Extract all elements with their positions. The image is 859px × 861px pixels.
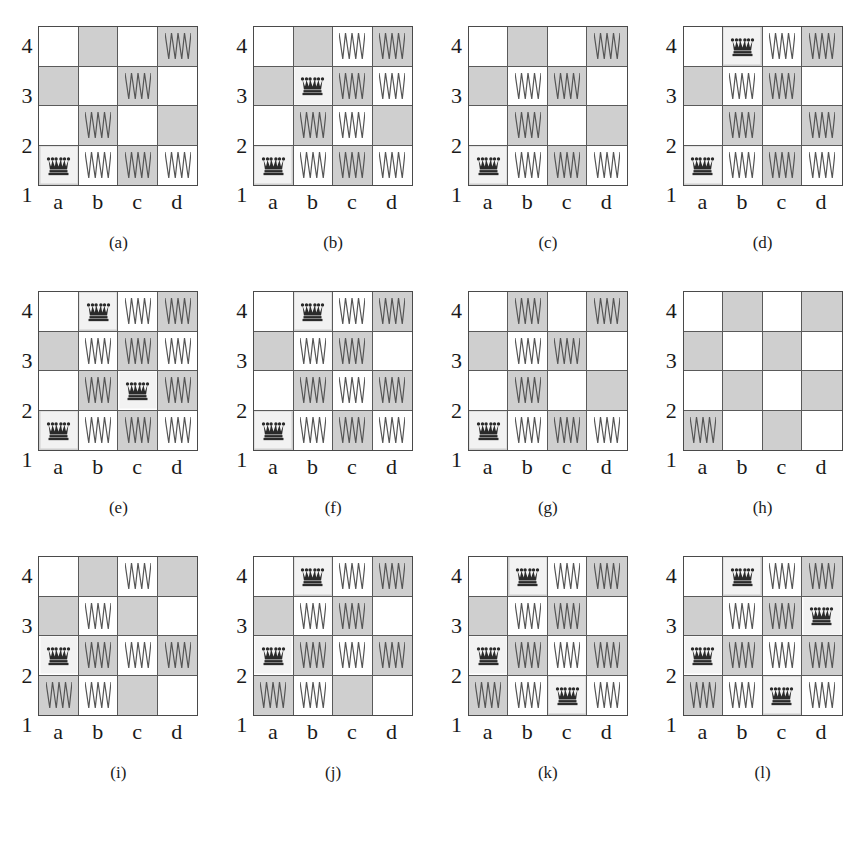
- square-b2[interactable]: [508, 636, 548, 676]
- square-a4[interactable]: [254, 27, 294, 67]
- square-c2[interactable]: [118, 106, 158, 146]
- square-d4[interactable]: [587, 292, 627, 332]
- square-c2[interactable]: [333, 371, 373, 411]
- queen-icon[interactable]: [470, 637, 507, 674]
- square-b3[interactable]: [79, 67, 119, 107]
- square-b2[interactable]: [508, 371, 548, 411]
- square-b2[interactable]: [79, 371, 119, 411]
- square-c4[interactable]: [763, 27, 803, 67]
- square-b2[interactable]: [508, 106, 548, 146]
- square-a3[interactable]: [39, 597, 79, 637]
- square-d2[interactable]: [802, 636, 842, 676]
- square-c3[interactable]: [333, 597, 373, 637]
- square-d4[interactable]: [158, 27, 198, 67]
- square-c4[interactable]: [548, 292, 588, 332]
- square-b2[interactable]: [723, 106, 763, 146]
- queen-icon[interactable]: [763, 677, 800, 714]
- square-c3[interactable]: [333, 332, 373, 372]
- square-d3[interactable]: [587, 597, 627, 637]
- square-d1[interactable]: [802, 676, 842, 716]
- square-a4[interactable]: [684, 557, 724, 597]
- square-c4[interactable]: [763, 292, 803, 332]
- square-d2[interactable]: [158, 106, 198, 146]
- queen-icon[interactable]: [803, 597, 840, 634]
- square-b2[interactable]: [79, 106, 119, 146]
- square-b3[interactable]: [79, 332, 119, 372]
- square-a3[interactable]: [39, 332, 79, 372]
- square-d4[interactable]: [158, 292, 198, 332]
- square-a2[interactable]: [684, 106, 724, 146]
- square-a3[interactable]: [254, 597, 294, 637]
- square-c2[interactable]: [763, 106, 803, 146]
- square-c2[interactable]: [548, 371, 588, 411]
- queen-icon[interactable]: [40, 147, 77, 184]
- square-a1[interactable]: [39, 411, 79, 451]
- square-b1[interactable]: [723, 146, 763, 186]
- square-c1[interactable]: [118, 411, 158, 451]
- square-a2[interactable]: [254, 106, 294, 146]
- square-b2[interactable]: [294, 106, 334, 146]
- square-c3[interactable]: [548, 332, 588, 372]
- square-c4[interactable]: [118, 557, 158, 597]
- square-b3[interactable]: [723, 332, 763, 372]
- square-c2[interactable]: [763, 371, 803, 411]
- square-a1[interactable]: [254, 411, 294, 451]
- square-c1[interactable]: [763, 676, 803, 716]
- square-d3[interactable]: [373, 597, 413, 637]
- square-d1[interactable]: [587, 146, 627, 186]
- square-a3[interactable]: [254, 332, 294, 372]
- queen-icon[interactable]: [684, 637, 721, 674]
- square-a3[interactable]: [469, 332, 509, 372]
- square-c2[interactable]: [763, 636, 803, 676]
- square-b1[interactable]: [79, 676, 119, 716]
- square-a1[interactable]: [684, 411, 724, 451]
- square-b1[interactable]: [723, 411, 763, 451]
- square-a2[interactable]: [684, 636, 724, 676]
- square-b3[interactable]: [508, 332, 548, 372]
- square-c4[interactable]: [333, 292, 373, 332]
- square-c1[interactable]: [763, 146, 803, 186]
- square-a3[interactable]: [469, 597, 509, 637]
- square-b1[interactable]: [79, 146, 119, 186]
- square-b1[interactable]: [294, 411, 334, 451]
- square-d3[interactable]: [158, 67, 198, 107]
- square-b2[interactable]: [294, 371, 334, 411]
- queen-icon[interactable]: [40, 637, 77, 674]
- square-c3[interactable]: [763, 332, 803, 372]
- square-c1[interactable]: [333, 676, 373, 716]
- queen-icon[interactable]: [255, 637, 292, 674]
- square-b3[interactable]: [294, 67, 334, 107]
- square-a1[interactable]: [469, 411, 509, 451]
- square-a1[interactable]: [469, 146, 509, 186]
- square-a1[interactable]: [684, 676, 724, 716]
- square-b1[interactable]: [508, 411, 548, 451]
- square-c3[interactable]: [333, 67, 373, 107]
- queen-icon[interactable]: [294, 558, 331, 595]
- square-b1[interactable]: [508, 146, 548, 186]
- square-a1[interactable]: [684, 146, 724, 186]
- square-d2[interactable]: [158, 371, 198, 411]
- square-d1[interactable]: [802, 411, 842, 451]
- queen-icon[interactable]: [80, 293, 117, 330]
- square-a2[interactable]: [39, 636, 79, 676]
- square-d4[interactable]: [802, 557, 842, 597]
- square-d4[interactable]: [373, 557, 413, 597]
- square-d1[interactable]: [158, 411, 198, 451]
- square-a3[interactable]: [684, 332, 724, 372]
- queen-icon[interactable]: [119, 372, 156, 409]
- queen-icon[interactable]: [294, 67, 331, 104]
- queen-icon[interactable]: [509, 558, 546, 595]
- square-b1[interactable]: [508, 676, 548, 716]
- square-c1[interactable]: [118, 146, 158, 186]
- square-c2[interactable]: [548, 636, 588, 676]
- queen-icon[interactable]: [684, 147, 721, 184]
- square-d3[interactable]: [373, 332, 413, 372]
- square-a4[interactable]: [254, 292, 294, 332]
- square-c1[interactable]: [548, 676, 588, 716]
- square-c4[interactable]: [118, 27, 158, 67]
- square-d4[interactable]: [802, 27, 842, 67]
- square-b4[interactable]: [79, 557, 119, 597]
- square-d4[interactable]: [373, 292, 413, 332]
- square-b1[interactable]: [294, 146, 334, 186]
- square-a4[interactable]: [39, 292, 79, 332]
